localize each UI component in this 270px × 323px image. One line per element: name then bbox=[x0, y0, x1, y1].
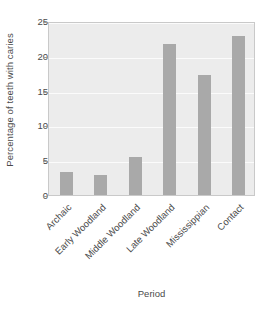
plot-area bbox=[48, 22, 255, 196]
x-axis-title: Period bbox=[48, 288, 255, 299]
bar bbox=[232, 36, 245, 195]
x-tick-label: Archaic bbox=[43, 202, 73, 232]
gridline bbox=[49, 162, 254, 163]
bar-chart-figure: Percentage of teeth with caries 05101520… bbox=[0, 0, 270, 323]
bar bbox=[129, 157, 142, 195]
bar bbox=[163, 44, 176, 195]
bar bbox=[60, 172, 73, 195]
bar bbox=[198, 75, 211, 195]
gridline bbox=[49, 93, 254, 94]
x-tick-label: Contact bbox=[215, 202, 246, 233]
y-tick-mark bbox=[43, 196, 48, 197]
bar bbox=[94, 175, 107, 195]
y-axis-title: Percentage of teeth with caries bbox=[2, 2, 18, 198]
gridline bbox=[49, 127, 254, 128]
gridline bbox=[49, 23, 254, 24]
gridline bbox=[49, 58, 254, 59]
